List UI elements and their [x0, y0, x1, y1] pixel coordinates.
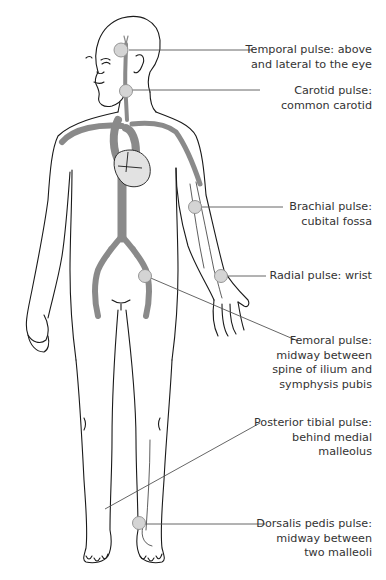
label-temporal-pulse: Temporal pulse: above and lateral to the…	[246, 43, 372, 72]
torso-outline-left	[26, 112, 118, 342]
pulse-points-diagram: Temporal pulse: above and lateral to the…	[0, 0, 386, 580]
label-radial-pulse: Radial pulse: wrist	[269, 269, 372, 284]
ear	[134, 55, 144, 73]
label-posterior-tibial-pulse: Posterior tibial pulse: behind medial ma…	[254, 416, 372, 460]
pulse-point-brachial	[189, 201, 202, 214]
pulse-point-temporal	[114, 43, 128, 57]
label-femoral-pulse: Femoral pulse: midway between spine of i…	[272, 334, 372, 392]
pulse-point-radial	[215, 270, 228, 283]
left-leg-outline	[76, 310, 118, 563]
label-carotid-pulse: Carotid pulse: common carotid	[281, 84, 372, 113]
label-brachial-pulse: Brachial pulse: cubital fossa	[289, 200, 372, 229]
label-dorsalis-pedis-pulse: Dorsalis pedis pulse: midway between two…	[256, 517, 372, 561]
pulse-point-dorsalis-pedis	[133, 517, 146, 530]
pulse-point-femoral	[139, 270, 152, 283]
pulse-point-carotid	[120, 85, 133, 98]
head-outline	[96, 16, 160, 92]
